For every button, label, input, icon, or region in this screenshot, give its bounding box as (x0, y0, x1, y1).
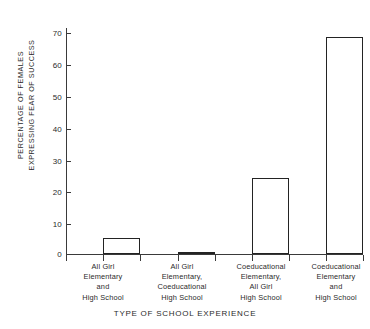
x-axis-category-label: All Girl Elementary, Coeducational High … (139, 262, 225, 303)
y-axis-tick-label: 50 (40, 93, 62, 102)
x-axis-category-label: All Girl Elementary and High School (62, 262, 144, 303)
x-axis-category-label-line: Coeducational (293, 262, 370, 272)
bar-chart: PERCENTAGE OF FEMALES EXPRESSING FEAR OF… (0, 0, 370, 329)
y-axis-tick-label: 0 (40, 250, 62, 259)
y-axis-tick-label: 30 (40, 157, 62, 166)
x-axis-category-label-line: and (62, 282, 144, 292)
x-axis-tick (289, 255, 290, 261)
x-axis-category-label-line: High School (293, 293, 370, 303)
bar-all-girl-elementary-and-high-school (103, 238, 140, 254)
y-axis-tick-label: 40 (40, 125, 62, 134)
y-axis-tick (66, 161, 71, 162)
y-axis-title: PERCENTAGE OF FEMALES EXPRESSING FEAR OF… (15, 5, 41, 205)
y-axis-tick-label: 20 (40, 188, 62, 197)
y-axis-tick-label: 10 (40, 220, 62, 229)
y-axis-tick (66, 129, 71, 130)
y-axis-tick (66, 192, 71, 193)
y-axis-tick (66, 224, 71, 225)
x-axis-category-label-line: Elementary, (139, 272, 225, 282)
y-axis-line (66, 28, 67, 255)
y-axis-tick-label: 60 (40, 61, 62, 70)
x-axis-category-label-line: Coeducational (218, 262, 304, 272)
y-axis-tick (66, 65, 71, 66)
x-axis-category-label-line: Elementary (62, 272, 144, 282)
x-axis-tick (103, 255, 104, 261)
y-axis-title-line-1: PERCENTAGE OF FEMALES (15, 5, 26, 205)
x-axis-tick (178, 255, 179, 261)
x-axis-category-label: Coeducational Elementary, All Girl High … (218, 262, 304, 303)
x-axis-category-label-line: Elementary (293, 272, 370, 282)
x-axis-category-label-line: and (293, 282, 370, 292)
x-axis-category-label-line: High School (218, 293, 304, 303)
y-axis-tick (66, 33, 71, 34)
bar-all-girl-elementary-coeducational-high-school (178, 252, 215, 254)
x-axis-tick (140, 255, 141, 261)
x-axis-category-label-line: High School (62, 293, 144, 303)
bar-coeducational-elementary-and-high-school (326, 37, 363, 254)
x-axis-category-label: Coeducational Elementary and High School (293, 262, 370, 303)
x-axis-category-label-line: All Girl (62, 262, 144, 272)
bar-coeducational-elementary-all-girl-high-school (252, 178, 289, 254)
x-axis-tick (252, 255, 253, 261)
y-axis-tick (66, 97, 71, 98)
x-axis-category-label-line: High School (139, 293, 225, 303)
y-axis-tick-label: 70 (40, 29, 62, 38)
x-axis-category-label-line: All Girl (139, 262, 225, 272)
x-axis-title: TYPE OF SCHOOL EXPERIENCE (0, 309, 370, 318)
x-axis-tick (66, 255, 67, 261)
y-axis-title-line-2: EXPRESSING FEAR OF SUCCESS (26, 5, 37, 205)
x-axis-category-label-line: Coeducational (139, 282, 225, 292)
x-axis-tick (363, 255, 364, 261)
x-axis-category-label-line: All Girl (218, 282, 304, 292)
x-axis-tick (215, 255, 216, 261)
x-axis-tick (326, 255, 327, 261)
x-axis-category-label-line: Elementary, (218, 272, 304, 282)
